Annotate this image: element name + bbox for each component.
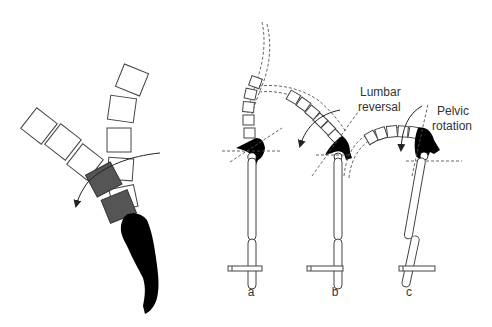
figure-a [222, 22, 282, 289]
vertebra-upright-2 [107, 95, 136, 122]
panel-label-a: a [248, 285, 255, 299]
vertebra-flexed-2 [45, 124, 81, 160]
annotation-lumbar-line2: reversal [358, 100, 401, 114]
annotation-lumbar-line1: Lumbar [360, 85, 401, 99]
annotation-pelvic-line1: Pelvic [437, 104, 469, 118]
left-spine-figure [21, 64, 160, 314]
vertebra-upright-3 [107, 128, 131, 152]
lumbopelvic-rhythm-diagram: Lumbar reversal Pelvic rotation a b c [0, 0, 492, 327]
vertebra-flexed-1 [21, 108, 57, 144]
panel-label-b: b [332, 285, 339, 299]
vertebra-upright-1 [115, 64, 148, 96]
figure-b [259, 86, 358, 289]
panel-label-c: c [406, 285, 412, 299]
annotation-pelvic-line2: rotation [432, 119, 472, 133]
sacrum [121, 213, 159, 314]
